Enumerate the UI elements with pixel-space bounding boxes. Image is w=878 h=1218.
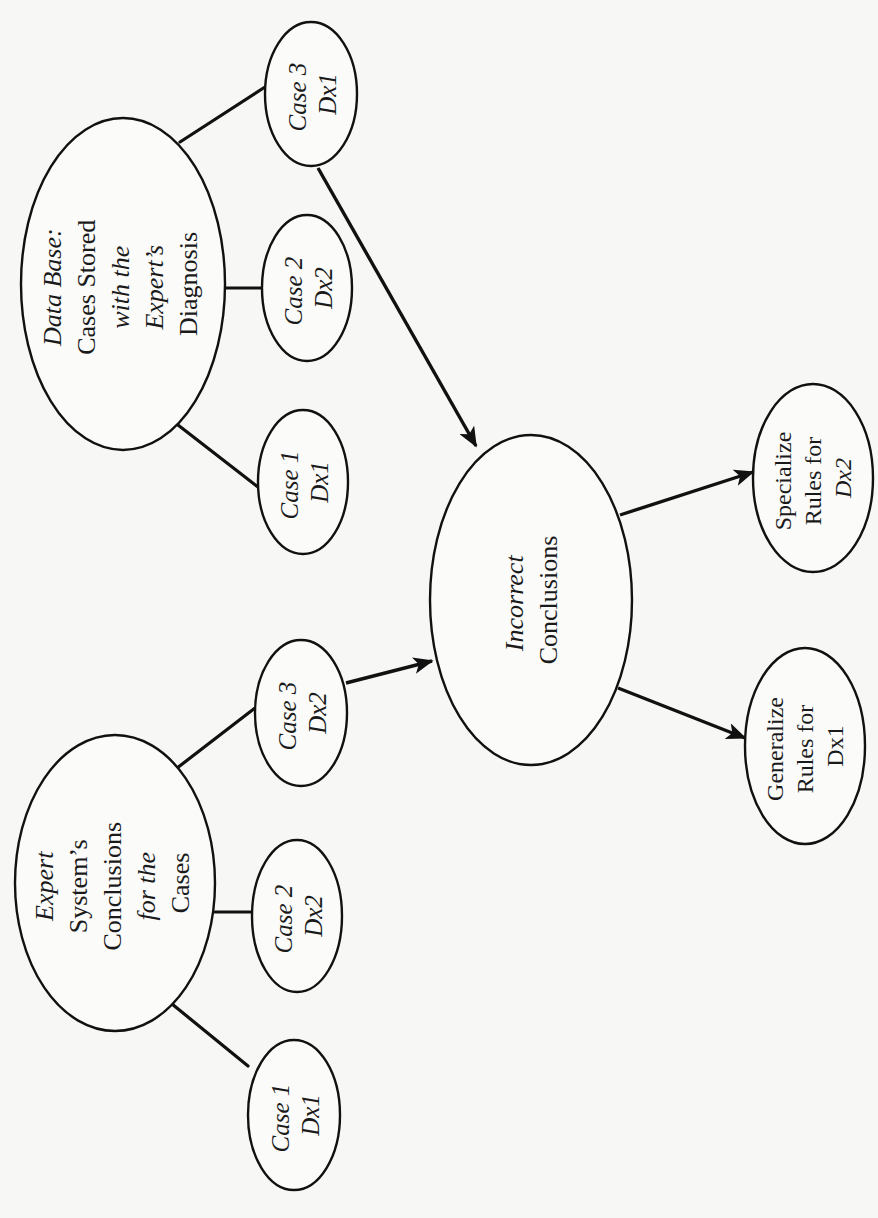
node-db-case3: Case 3 Dx1 bbox=[265, 22, 357, 166]
node-es-case2: Case 2 Dx2 bbox=[252, 840, 342, 992]
node-db-case1: Case 1 Dx1 bbox=[258, 410, 348, 554]
node-es-case1: Case 1 Dx1 bbox=[248, 1040, 340, 1190]
es-case2-ellipse bbox=[252, 840, 342, 992]
edge-expert-case1 bbox=[172, 1004, 248, 1066]
edge-database-case1 bbox=[178, 425, 258, 487]
node-specialize-rules: Specialize Rules for Dx2 bbox=[753, 384, 873, 572]
db-case2-ellipse bbox=[262, 215, 352, 361]
arrow-incorrect-to-specialize bbox=[620, 472, 753, 515]
node-es-case3: Case 3 Dx2 bbox=[255, 640, 347, 786]
node-incorrect-conclusions: Incorrect Conclusions bbox=[430, 435, 632, 765]
diagram-canvas: Data Base: Cases Stored with the Expert’… bbox=[0, 0, 878, 1218]
db-case1-ellipse bbox=[258, 410, 348, 554]
db-case3-ellipse bbox=[265, 22, 357, 166]
node-database: Data Base: Cases Stored with the Expert’… bbox=[21, 118, 225, 450]
arrow-incorrect-to-generalize bbox=[618, 688, 745, 738]
edge-expert-case3 bbox=[168, 708, 255, 775]
node-db-case2: Case 2 Dx2 bbox=[262, 215, 352, 361]
incorrect-conclusions-ellipse bbox=[430, 435, 632, 765]
arrow-escase3-to-incorrect bbox=[346, 661, 432, 683]
node-generalize-rules: Generalize Rules for Dx1 bbox=[745, 648, 865, 844]
edge-database-case3 bbox=[180, 87, 265, 142]
es-case1-ellipse bbox=[248, 1040, 340, 1190]
node-expert-system: Expert System’s Conclusions for the Case… bbox=[15, 735, 215, 1031]
es-case3-ellipse bbox=[255, 640, 347, 786]
